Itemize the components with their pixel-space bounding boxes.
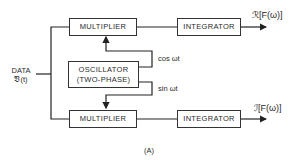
oscillator-label-line1: OSCILLATOR — [79, 65, 129, 75]
integrator-bottom-block: INTEGRATOR — [177, 110, 241, 128]
oscillator-block: OSCILLATOR (TWO-PHASE) — [68, 61, 139, 88]
sin-signal-label: sin ωt — [158, 84, 178, 93]
integrator-top-block: INTEGRATOR — [177, 18, 241, 36]
data-input-line2: 𝔙(t) — [6, 75, 36, 84]
multiplier-bottom-block: MULTIPLIER — [69, 110, 137, 128]
multiplier-top-label: MULTIPLIER — [80, 22, 127, 32]
data-input-label: DATA 𝔙(t) — [6, 66, 36, 84]
integrator-top-label: INTEGRATOR — [183, 22, 234, 32]
cos-signal-label: cos ωt — [158, 54, 180, 63]
integrator-bottom-label: INTEGRATOR — [183, 114, 234, 124]
real-output-label: ℛ[F(ω)] — [252, 11, 283, 20]
multiplier-top-block: MULTIPLIER — [69, 18, 137, 36]
connection-wires — [0, 0, 299, 160]
data-input-line1: DATA — [6, 66, 36, 75]
oscillator-label-line2: (TWO-PHASE) — [77, 75, 131, 85]
figure-caption: (A) — [144, 146, 154, 155]
imag-output-label: ℐ[F(ω)] — [254, 104, 282, 113]
multiplier-bottom-label: MULTIPLIER — [80, 114, 127, 124]
